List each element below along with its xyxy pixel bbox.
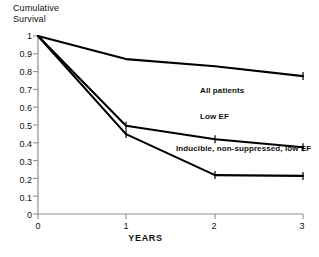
y-axis-ticks bbox=[33, 36, 38, 214]
plot-area bbox=[0, 0, 319, 257]
series-line-low-ef bbox=[38, 36, 303, 147]
series-line-all-patients bbox=[38, 36, 303, 76]
survival-chart: Cumulative Survival 1 0.9 0.8 0.7 0.6 0.… bbox=[0, 0, 319, 257]
x-axis-ticks bbox=[38, 214, 303, 219]
series-line-inducible bbox=[38, 36, 303, 176]
